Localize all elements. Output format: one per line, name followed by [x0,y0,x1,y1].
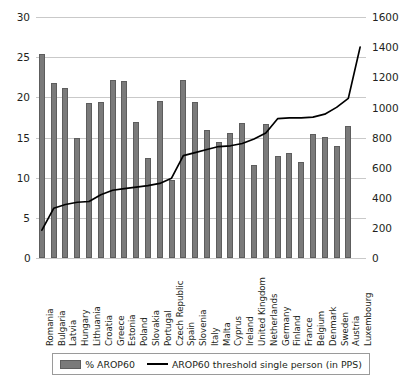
y-axis-tick-left: 10 [4,173,30,183]
x-axis-label: Denmark [329,307,338,347]
x-axis-label: Lithuania [93,306,102,346]
x-axis-label: Italy [211,327,220,346]
x-axis-label: Malta [223,322,232,346]
legend-label-bar: % AROP60 [85,359,135,370]
y-axis-tick-right: 1400 [372,42,406,52]
x-axis-label: Greece [117,315,126,346]
legend-label-line: AROP60 threshold single person (in PPS) [172,359,362,370]
x-axis-label: Portugal [164,310,173,346]
y-axis-tick-right: 1200 [372,72,406,82]
x-axis-label: Poland [140,317,149,346]
x-axis-label: Latvia [69,320,78,346]
y-axis-tick-right: 600 [372,163,406,173]
x-axis-label: Estonia [128,314,137,346]
line-series [36,17,366,258]
chart-container: 30 25 20 15 10 5 0 1600 1400 1200 1000 8… [0,0,420,383]
x-axis-label: Croatia [105,315,114,346]
x-axis-label: Finland [293,315,302,346]
y-axis-tick-right-zero: 0 [372,252,379,264]
line-swatch-icon [147,363,168,365]
legend-item-line: AROP60 threshold single person (in PPS) [147,359,362,370]
x-axis-label: Ireland [246,316,255,346]
y-axis-tick-left: 30 [4,12,30,22]
x-axis-label: Belgium [317,311,326,346]
x-axis-label: United Kingdom [258,277,267,346]
x-axis-label: Slovenia [199,309,208,346]
plot-area [36,17,366,258]
x-axis-label: Czech Republic [176,281,185,346]
y-axis-tick-right: 1000 [372,103,406,113]
x-axis-label: Romania [46,308,55,346]
y-axis-tick-left: 5 [4,213,30,223]
x-axis-label: Austria [352,316,361,346]
x-axis-label: Bulgaria [58,310,67,346]
x-axis-label: Cyprus [234,316,243,346]
y-axis-tick-right: 400 [372,193,406,203]
legend-item-bar: % AROP60 [60,359,135,370]
y-axis-tick-left: 15 [4,133,30,143]
x-axis-label: Luxembourg [364,292,373,346]
bar-swatch-icon [60,360,81,369]
y-axis-tick-right: 200 [372,223,406,233]
x-axis-labels: RomaniaBulgariaLatviaHungaryLithuaniaCro… [36,258,366,350]
y-axis-tick-left-zero: 0 [24,252,31,264]
y-axis-tick-left: 25 [4,52,30,62]
x-axis-label: France [305,317,314,346]
x-axis-label: Slovakia [152,310,161,346]
y-axis-tick-left: 20 [4,92,30,102]
y-axis-tick-right: 1600 [372,12,406,22]
x-axis-label: Hungary [81,309,90,346]
y-axis-tick-right: 800 [372,133,406,143]
x-axis-label: Sweden [341,312,350,346]
chart-legend: % AROP60 AROP60 threshold single person … [52,353,370,375]
x-axis-label: Netherlands [270,294,279,346]
x-axis-label: Spain [187,322,196,346]
x-axis-label: Germany [282,307,291,347]
